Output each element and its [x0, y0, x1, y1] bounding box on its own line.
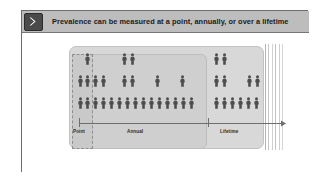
vertical-rule: [282, 44, 283, 150]
person-figure-icon: [122, 53, 127, 65]
person-figure-icon: [85, 53, 90, 65]
person-figure-icon: [101, 75, 106, 87]
person-figure-icon: [125, 97, 130, 109]
person-figure-icon: [93, 75, 98, 87]
person-figure-icon: [246, 97, 251, 109]
person-figure-icon: [85, 97, 90, 109]
person-figure-icon: [85, 75, 90, 87]
axis-label-lifetime: Lifetime: [220, 129, 238, 134]
vertical-rule: [275, 44, 276, 150]
person-figure-icon: [141, 97, 146, 109]
person-figure-icon: [181, 97, 186, 109]
person-figure-icon: [157, 97, 162, 109]
person-figure-icon: [133, 97, 138, 109]
slide-title: Prevalence can be measured at a point, a…: [52, 17, 289, 26]
person-figure-icon: [189, 97, 194, 109]
person-figure-icon: [255, 75, 260, 87]
axis-tick-point: [79, 118, 80, 127]
person-figure-icon: [254, 97, 259, 109]
lifetime-edge-rules: [265, 44, 287, 150]
person-figure-icon: [93, 97, 98, 109]
timeline-axis: [79, 123, 282, 124]
chevron-right-icon: [24, 13, 43, 31]
axis-label-annual: Annual: [127, 129, 143, 134]
person-figure-icon: [180, 75, 185, 87]
person-figure-icon: [214, 75, 219, 87]
axis-tick-lifetime: [208, 118, 209, 127]
person-figure-icon: [238, 97, 243, 109]
person-figure-icon: [214, 97, 219, 109]
prevalence-timeline-diagram: Point Annual Lifetime: [22, 33, 309, 172]
person-figure-icon: [222, 53, 227, 65]
person-figure-icon: [214, 53, 219, 65]
person-figure-icon: [173, 97, 178, 109]
vertical-rule: [265, 44, 266, 150]
axis-label-point: Point: [73, 129, 85, 134]
slide-header-bar: Prevalence can be measured at a point, a…: [22, 11, 309, 33]
person-figure-icon: [101, 97, 106, 109]
vertical-rule: [272, 44, 273, 150]
person-figure-icon: [155, 75, 160, 87]
person-figure-icon: [222, 75, 227, 87]
person-figure-icon: [130, 75, 135, 87]
person-figure-icon: [130, 53, 135, 65]
person-figure-icon: [78, 75, 83, 87]
person-figure-icon: [247, 75, 252, 87]
person-figure-icon: [78, 97, 83, 109]
person-figure-icon: [117, 97, 122, 109]
timeline-arrow-icon: [266, 119, 288, 128]
person-figure-icon: [122, 75, 127, 87]
person-figure-icon: [222, 97, 227, 109]
vertical-rule: [279, 44, 280, 150]
person-figure-icon: [230, 97, 235, 109]
slide-frame: Prevalence can be measured at a point, a…: [21, 10, 308, 172]
person-figure-icon: [149, 97, 154, 109]
person-figure-icon: [109, 97, 114, 109]
vertical-rule: [268, 44, 269, 150]
person-figure-icon: [165, 97, 170, 109]
